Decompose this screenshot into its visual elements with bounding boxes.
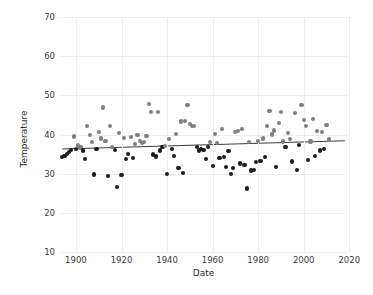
data-point: [240, 127, 244, 131]
data-point: [119, 173, 123, 177]
data-point: [299, 103, 303, 107]
data-point: [211, 164, 215, 168]
data-point: [113, 148, 117, 152]
data-point: [156, 110, 160, 114]
y-tick-label: 70: [44, 12, 55, 22]
data-point: [206, 145, 210, 149]
data-point: [295, 168, 299, 172]
chart-figure: 1900192019401960198020002020 10203040506…: [0, 0, 373, 295]
data-point: [245, 186, 249, 190]
x-tick-label: 1960: [202, 255, 224, 265]
y-gridline: [60, 252, 347, 253]
data-point: [308, 139, 312, 143]
y-tick-label: 20: [44, 208, 55, 218]
data-point: [213, 132, 217, 136]
data-point: [81, 148, 85, 152]
data-point: [313, 154, 317, 158]
data-point: [254, 160, 258, 164]
data-point: [272, 128, 276, 132]
x-tick-label: 1920: [111, 255, 133, 265]
y-gridline: [60, 213, 347, 214]
data-point: [229, 172, 233, 176]
data-point: [267, 109, 271, 113]
y-gridline: [60, 56, 347, 57]
x-tick-label: 1900: [65, 255, 87, 265]
data-point: [318, 148, 322, 152]
data-point: [135, 133, 139, 137]
data-point: [320, 130, 324, 134]
y-gridline: [60, 135, 347, 136]
data-point: [165, 172, 169, 176]
data-point: [277, 121, 281, 125]
y-tick-label: 40: [44, 130, 55, 140]
data-point: [222, 155, 226, 159]
data-point: [297, 143, 301, 147]
data-point: [252, 168, 256, 172]
data-point: [327, 137, 331, 141]
data-point: [179, 119, 183, 123]
y-gridline: [60, 95, 347, 96]
y-gridline: [60, 174, 347, 175]
data-point: [281, 139, 285, 143]
data-point: [92, 172, 96, 176]
x-axis-label: Date: [60, 268, 347, 278]
y-axis-label: Temperature: [19, 79, 29, 199]
data-point: [270, 132, 274, 136]
data-point: [144, 134, 148, 138]
x-tick-label: 2020: [338, 255, 360, 265]
data-point: [106, 174, 110, 178]
data-point: [115, 185, 119, 189]
y-tick-label: 50: [44, 90, 55, 100]
data-point: [258, 159, 262, 163]
data-point: [242, 163, 246, 167]
y-gridline: [60, 17, 347, 18]
y-tick-label: 30: [44, 169, 55, 179]
data-point: [217, 156, 221, 160]
data-point: [122, 136, 126, 140]
data-point: [94, 147, 98, 151]
plot-area: [60, 17, 347, 252]
y-tick-label: 60: [44, 51, 55, 61]
data-point: [311, 117, 315, 121]
data-point: [97, 130, 101, 134]
data-point: [163, 144, 167, 148]
data-point: [88, 133, 92, 137]
data-point: [220, 127, 224, 131]
data-point: [185, 103, 189, 107]
data-point: [283, 145, 287, 149]
x-tick-label: 1980: [247, 255, 269, 265]
data-point: [261, 136, 265, 140]
data-point: [238, 161, 242, 165]
data-point: [324, 123, 328, 127]
x-tick-label: 2000: [293, 255, 315, 265]
y-tick-label: 10: [44, 247, 55, 257]
data-point: [288, 137, 292, 141]
x-gridline: [349, 17, 350, 252]
data-point: [103, 139, 107, 143]
data-point: [129, 135, 133, 139]
data-point: [99, 136, 103, 140]
data-point: [158, 148, 162, 152]
data-point: [176, 166, 180, 170]
data-point: [172, 154, 176, 158]
data-point: [72, 134, 76, 138]
data-point: [279, 110, 283, 114]
data-point: [201, 148, 205, 152]
data-point: [154, 154, 158, 158]
data-point: [101, 105, 105, 109]
x-tick-label: 1940: [156, 255, 178, 265]
data-point: [286, 131, 290, 135]
